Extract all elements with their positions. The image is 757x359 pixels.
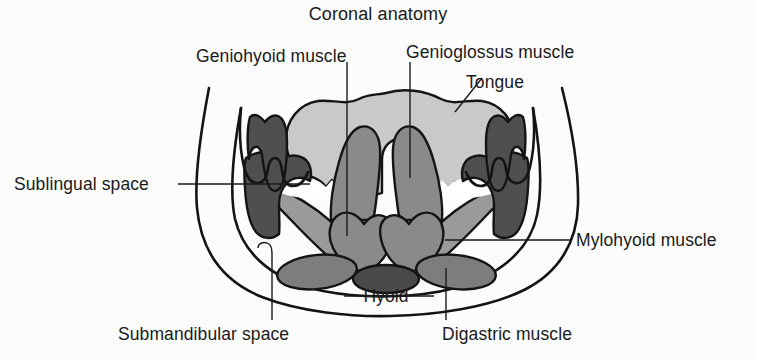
label-hyoid: Hyoid: [363, 286, 408, 306]
leader-submandibular-space: [258, 243, 272, 320]
label-sublingual-space: Sublingual space: [14, 174, 149, 194]
label-geniohyoid: Geniohyoid muscle: [196, 46, 347, 66]
label-submandibular-space: Submandibular space: [118, 324, 289, 344]
digastric-muscle-left: [275, 251, 358, 293]
label-digastric: Digastric muscle: [442, 324, 572, 344]
anatomy-illustration: Coronal anatomy Geniohyoid muscle Geniog…: [0, 0, 757, 359]
digastric-muscle-right: [414, 251, 497, 293]
label-genioglossus: Genioglossus muscle: [406, 42, 574, 62]
coronal-anatomy-figure: Coronal anatomy Geniohyoid muscle Geniog…: [0, 0, 757, 359]
label-tongue: Tongue: [466, 72, 524, 92]
figure-title: Coronal anatomy: [309, 4, 448, 24]
label-mylohyoid: Mylohyoid muscle: [576, 230, 717, 250]
